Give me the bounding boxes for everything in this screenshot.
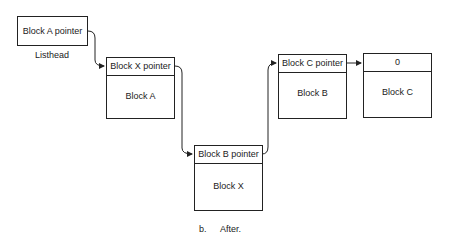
caption-letter: b. <box>199 224 207 234</box>
block-a: Block X pointer Block A <box>106 57 175 119</box>
block-x-pointer: Block B pointer <box>195 146 262 164</box>
listhead-label: Listhead <box>35 50 69 60</box>
block-b-pointer: Block C pointer <box>279 55 346 73</box>
caption-text: After. <box>220 224 241 234</box>
block-a-name: Block A <box>107 91 174 101</box>
listhead-pointer: Block A pointer <box>18 26 87 36</box>
block-x-name: Block X <box>195 181 262 191</box>
block-b-name: Block B <box>279 88 346 98</box>
block-x: Block B pointer Block X <box>194 145 263 211</box>
arrow-block-a-to-block-x <box>175 66 192 154</box>
block-c-pointer: 0 <box>364 54 431 72</box>
block-c-name: Block C <box>364 87 431 97</box>
listhead-box: Block A pointer <box>17 16 88 46</box>
block-a-pointer: Block X pointer <box>107 58 174 76</box>
arrow-listhead-to-block-a <box>88 31 104 66</box>
arrow-block-x-to-block-b <box>262 63 276 154</box>
block-b: Block C pointer Block B <box>278 54 347 119</box>
block-c: 0 Block C <box>363 53 432 118</box>
